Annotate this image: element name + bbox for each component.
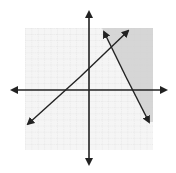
coordinate-plane (0, 0, 176, 173)
